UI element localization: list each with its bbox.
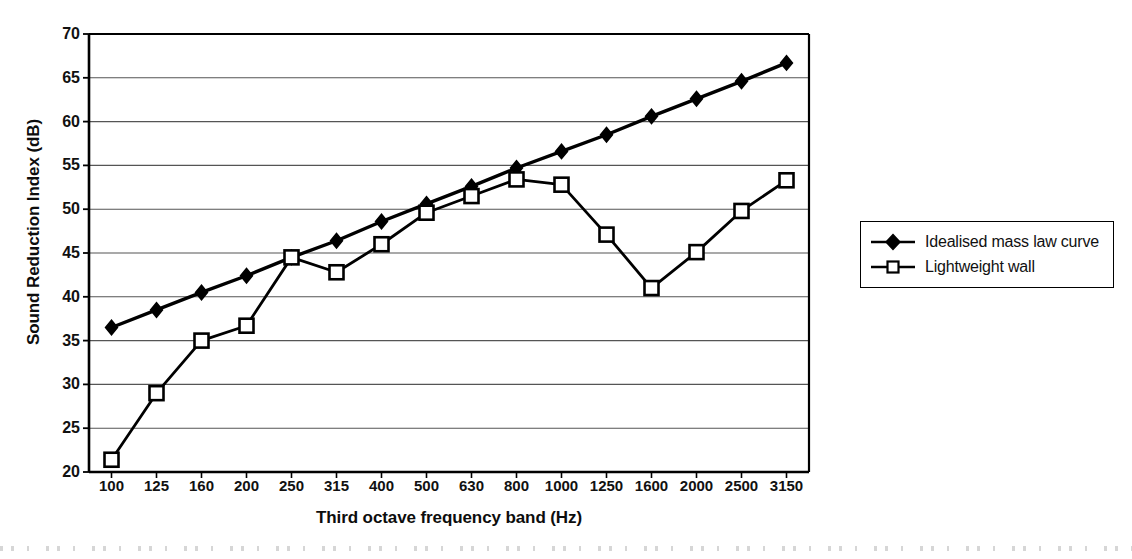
data-point-marker-lightweight-wall bbox=[105, 453, 119, 467]
legend-entry-lightweight-wall: Lightweight wall bbox=[870, 254, 1099, 279]
y-tick-label: 20 bbox=[44, 463, 80, 481]
y-tick-label: 30 bbox=[44, 375, 80, 393]
legend-label-mass-law: Idealised mass law curve bbox=[916, 233, 1099, 251]
data-point-marker-lightweight-wall bbox=[195, 334, 209, 348]
scan-artifact bbox=[0, 546, 1132, 551]
legend-label-lightweight-wall: Lightweight wall bbox=[916, 258, 1035, 276]
legend-entry-mass-law: Idealised mass law curve bbox=[870, 229, 1099, 254]
data-point-marker-lightweight-wall bbox=[285, 250, 299, 264]
y-tick-label: 40 bbox=[44, 288, 80, 306]
chart-figure: Sound Reduction Index (dB) Third octave … bbox=[0, 0, 1132, 559]
filled-diamond-icon bbox=[870, 232, 916, 252]
data-point-marker-lightweight-wall bbox=[465, 189, 479, 203]
data-point-marker-lightweight-wall bbox=[330, 265, 344, 279]
data-point-marker-lightweight-wall bbox=[555, 178, 569, 192]
data-point-marker-lightweight-wall bbox=[150, 386, 164, 400]
data-point-marker-lightweight-wall bbox=[780, 173, 794, 187]
data-point-marker-lightweight-wall bbox=[690, 245, 704, 259]
data-point-marker-lightweight-wall bbox=[375, 237, 389, 251]
y-tick-label: 70 bbox=[44, 25, 80, 43]
y-tick-label: 50 bbox=[44, 200, 80, 218]
open-square-icon bbox=[870, 257, 916, 277]
data-point-marker-lightweight-wall bbox=[735, 204, 749, 218]
data-point-marker-lightweight-wall bbox=[510, 172, 524, 186]
x-tick-label: 3150 bbox=[758, 477, 816, 494]
y-tick-label: 25 bbox=[44, 419, 80, 437]
chart-legend: Idealised mass law curve Lightweight wal… bbox=[860, 221, 1114, 288]
data-point-marker-lightweight-wall bbox=[240, 319, 254, 333]
data-point-marker-lightweight-wall bbox=[600, 228, 614, 242]
y-tick-label: 60 bbox=[44, 113, 80, 131]
y-tick-label: 55 bbox=[44, 156, 80, 174]
data-point-marker-lightweight-wall bbox=[420, 206, 434, 220]
y-tick-label: 35 bbox=[44, 332, 80, 350]
y-tick-label: 45 bbox=[44, 244, 80, 262]
y-tick-label: 65 bbox=[44, 69, 80, 87]
data-point-marker-lightweight-wall bbox=[645, 281, 659, 295]
